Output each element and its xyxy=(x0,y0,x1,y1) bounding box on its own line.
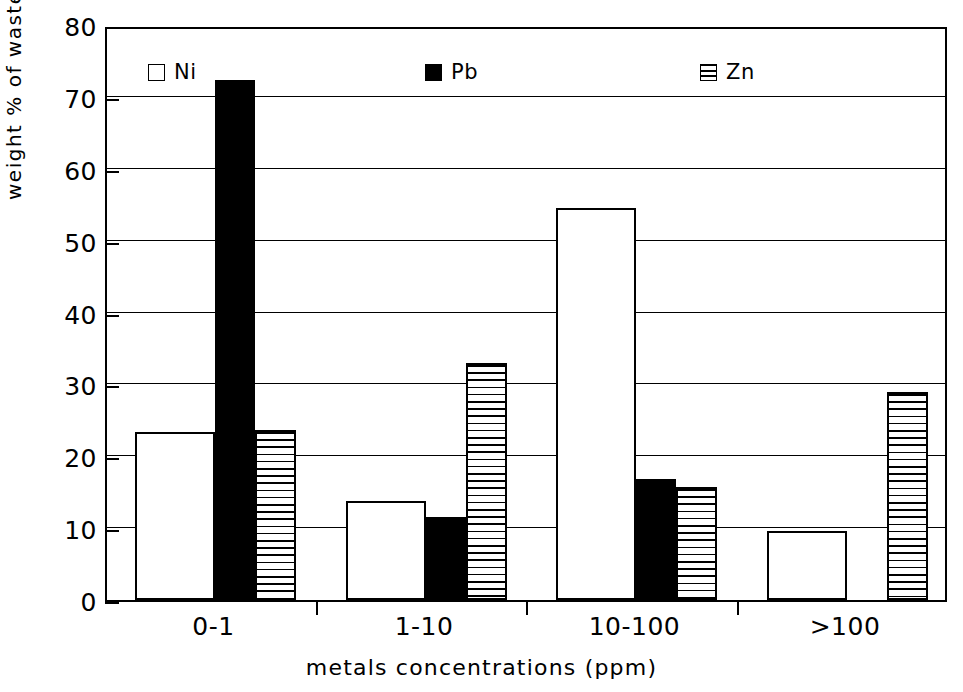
x-tick-label-0-1: 0-1 xyxy=(114,612,314,641)
y-tick-mark xyxy=(105,171,119,173)
bar-pb-1-10 xyxy=(426,517,466,600)
bar-zn->100 xyxy=(887,392,928,600)
y-tick-mark xyxy=(105,530,119,532)
bar-ni->100 xyxy=(767,531,847,600)
x-axis-label: metals concentrations (ppm) xyxy=(0,655,963,680)
bar-ni-10-100 xyxy=(556,208,636,600)
x-tick-mark xyxy=(316,602,318,615)
y-tick-mark xyxy=(105,27,119,29)
x-tick-label-10-100: 10-100 xyxy=(535,612,735,641)
bar-ni-0-1 xyxy=(135,432,215,600)
legend-label-ni: Ni xyxy=(174,60,197,84)
y-tick-mark xyxy=(105,315,119,317)
black-square-icon xyxy=(425,64,442,81)
bar-zn-0-1 xyxy=(255,430,296,600)
y-tick-mark xyxy=(105,243,119,245)
y-tick-label: 40 xyxy=(7,300,97,329)
y-tick-mark xyxy=(105,386,119,388)
x-tick-mark xyxy=(526,602,528,615)
y-tick-label: 50 xyxy=(7,228,97,257)
y-tick-label: 80 xyxy=(7,13,97,42)
y-tick-label: 10 xyxy=(7,516,97,545)
bar-pb-0-1 xyxy=(215,80,255,600)
bar-zn-10-100 xyxy=(676,487,717,600)
legend-label-pb: Pb xyxy=(451,60,478,84)
x-tick-label-1-10: 1-10 xyxy=(324,612,524,641)
y-tick-label: 0 xyxy=(7,588,97,617)
bar-zn-1-10 xyxy=(466,363,507,600)
white-square-icon xyxy=(148,64,165,81)
x-tick-label->100: >100 xyxy=(745,612,945,641)
y-tick-mark xyxy=(105,458,119,460)
y-tick-label: 30 xyxy=(7,372,97,401)
bar-pb-10-100 xyxy=(636,479,676,600)
legend-entry-zn: Zn xyxy=(700,60,755,84)
y-tick-label: 20 xyxy=(7,444,97,473)
bar-ni-1-10 xyxy=(346,501,426,600)
x-tick-mark xyxy=(737,602,739,615)
y-tick-mark xyxy=(105,602,119,604)
bar-chart-figure: weight % of waste 01020304050607080 0-11… xyxy=(0,0,963,692)
plot-area xyxy=(105,27,947,602)
striped-square-icon xyxy=(700,64,717,81)
legend-label-zn: Zn xyxy=(726,60,755,84)
legend-entry-ni: Ni xyxy=(148,60,197,84)
y-tick-mark xyxy=(105,99,119,101)
y-tick-label: 70 xyxy=(7,84,97,113)
y-tick-label: 60 xyxy=(7,156,97,185)
legend-entry-pb: Pb xyxy=(425,60,478,84)
